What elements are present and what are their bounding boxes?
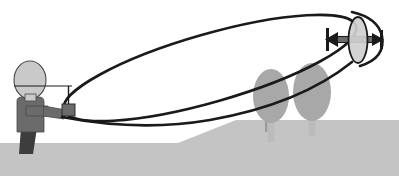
craft-tail-bar	[326, 28, 329, 51]
illustration-canvas	[0, 0, 399, 176]
operator-neck	[25, 94, 36, 101]
craft-disc	[349, 17, 368, 63]
tree-left-canopy	[253, 69, 289, 123]
hill-slope	[0, 120, 399, 176]
transmitter-body	[62, 104, 75, 116]
operator-head	[14, 61, 46, 99]
remote-control-transmitter	[62, 86, 75, 116]
scene-svg	[0, 0, 399, 176]
